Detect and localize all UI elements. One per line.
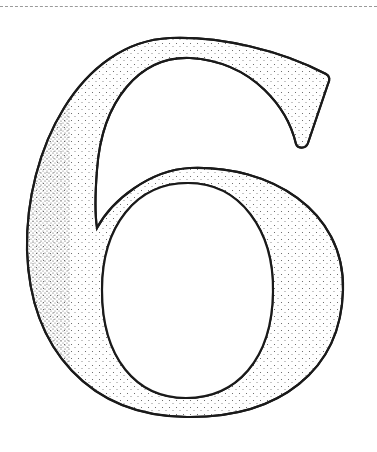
numeral-six-figure xyxy=(0,0,377,452)
six-bowl-counter-outline xyxy=(102,183,273,398)
